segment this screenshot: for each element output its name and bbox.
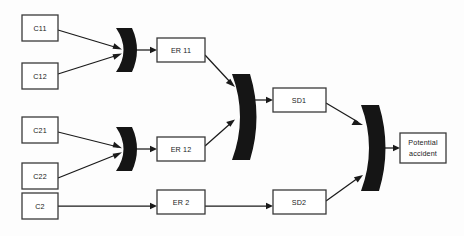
node-c2-label: C2 [35,202,45,211]
node-er12-label: ER 12 [171,145,192,154]
node-er2-label: ER 2 [173,198,190,207]
and-gate-final[interactable] [361,105,386,191]
edge-c12-to-gate-1 [58,54,122,75]
edge-er11-to-gate-center [205,55,235,87]
nodes-layer: C11 C12 C21 C22 C2 ER 11 [22,15,446,219]
node-c2[interactable]: C2 [22,193,58,219]
node-er12[interactable]: ER 12 [157,137,205,161]
node-c21[interactable]: C21 [22,117,58,143]
node-c21-label: C21 [33,126,47,135]
edge-gate-1-to-er11 [136,47,157,53]
node-c11-label: C11 [33,24,46,33]
node-er2[interactable]: ER 2 [157,190,205,214]
node-sd1[interactable]: SD1 [273,88,326,112]
node-c11[interactable]: C11 [22,15,58,41]
and-gate-center[interactable] [232,74,257,160]
edge-er12-to-gate-center [205,120,235,147]
node-potential-accident-label-line1: Potential [408,138,438,147]
edge-c22-to-gate-2 [58,152,122,178]
edge-er2-to-sd2 [205,203,273,209]
edge-c21-to-gate-2 [58,132,122,148]
node-er11-label: ER 11 [171,46,191,55]
and-gate-2[interactable] [116,127,137,171]
node-c22-label: C22 [33,172,47,181]
node-sd2-label: SD2 [292,198,306,207]
edge-c2-to-er2 [58,203,157,209]
and-gate-1[interactable] [116,28,137,72]
node-c12[interactable]: C12 [22,63,58,89]
flow-diagram: C11 C12 C21 C22 C2 ER 11 [0,0,464,236]
node-potential-accident[interactable]: Potential accident [400,133,446,163]
edges-layer [58,30,400,209]
edge-sd2-to-gate-final [326,175,363,201]
node-sd2[interactable]: SD2 [273,190,326,214]
edge-sd1-to-gate-final [326,103,363,125]
diagram-canvas: C11 C12 C21 C22 C2 ER 11 [0,0,464,236]
node-sd1-label: SD1 [292,96,306,105]
node-potential-accident-label-line2: accident [409,149,437,158]
node-c22[interactable]: C22 [22,163,58,189]
node-c12-label: C12 [33,72,47,81]
node-er11[interactable]: ER 11 [157,38,205,62]
edge-gate-2-to-er12 [136,146,157,152]
edge-c11-to-gate-1 [58,30,122,50]
